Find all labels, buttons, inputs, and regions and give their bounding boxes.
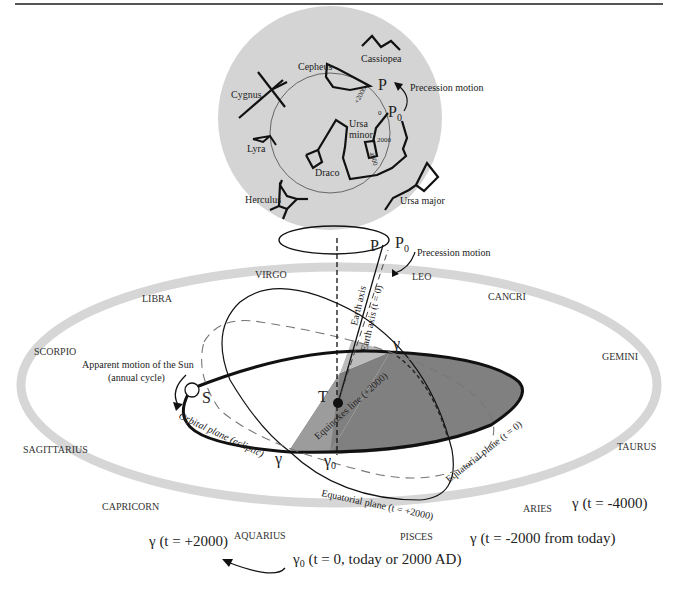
zodiac-scorpio: SCORPIO [34, 346, 76, 357]
gamma0-label: γ0 [323, 452, 336, 471]
zodiac-aries: ARIES [523, 503, 552, 514]
axis-p0-label: P0 [395, 234, 409, 254]
precession-label-sphere: Precession motion [410, 82, 484, 93]
gamma-upper-label: γ [392, 335, 400, 353]
axis-precession-label: Precession motion [417, 247, 491, 258]
epoch-plus-2000: γ (t = +2000) [148, 533, 228, 550]
gamma-lower-label: γ [274, 450, 282, 468]
sun-circle [185, 383, 199, 397]
epoch-arrow [230, 563, 285, 573]
herculus-label: Herculus [245, 194, 281, 205]
zodiac-gemini: GEMINI [602, 351, 638, 362]
tick-0: 0 [378, 109, 382, 117]
sun-motion-label-1: Apparent motion of the Sun [82, 359, 194, 370]
epoch-today: γ0 (t = 0, today or 2000 AD) [292, 551, 461, 569]
zodiac-taurus: TAURUS [617, 441, 656, 452]
zodiac-leo: LEO [412, 271, 431, 282]
precession-diagram: Cassiopea Cepheus Cygnus Lyra Draco Ursa… [0, 0, 678, 594]
ursa-minor-label-2: minor [349, 129, 374, 140]
ursa-minor-label-1: Ursa [349, 118, 368, 129]
cygnus-label: Cygnus [231, 89, 262, 100]
pole-p-label: P [378, 76, 387, 93]
zodiac-libra: LIBRA [142, 293, 173, 304]
cepheus-label: Cepheus [298, 61, 333, 72]
tick-2000: 2000 [377, 136, 392, 144]
zodiac-capricorn: CAPRICORN [102, 501, 159, 512]
draco-label: Draco [315, 167, 339, 178]
sun-motion-label-2: (annual cycle) [108, 372, 165, 384]
zodiac-cancri: CANCRI [488, 291, 526, 302]
sun-label: S [202, 389, 211, 406]
earth-label: T [318, 388, 328, 405]
ursa-major-label: Ursa major [400, 195, 445, 206]
zodiac-pisces: PISCES [400, 531, 433, 542]
epoch-minus-2000: γ (t = -2000 from today) [469, 530, 615, 547]
cassiopea-label: Cassiopea [361, 53, 402, 64]
celestial-sphere: Cassiopea Cepheus Cygnus Lyra Draco Ursa… [218, 6, 484, 230]
zodiac-aquarius: AQUARIUS [234, 530, 286, 541]
epoch-minus-4000: γ (t = -4000) [571, 495, 648, 512]
axis-p-label: P [370, 237, 379, 254]
zodiac-sagittarius: SAGITTARIUS [23, 444, 88, 455]
lyra-label: Lyra [247, 143, 266, 154]
zodiac-virgo: VIRGO [255, 269, 287, 280]
